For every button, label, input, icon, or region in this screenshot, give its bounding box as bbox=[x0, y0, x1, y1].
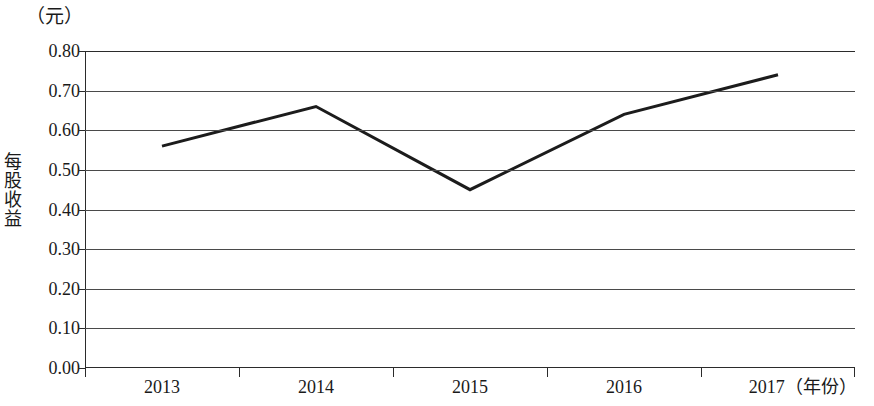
x-axis-tick-label: 2016 bbox=[606, 376, 642, 398]
y-axis-tick-mark bbox=[78, 170, 85, 171]
plot-area bbox=[85, 51, 855, 368]
y-axis-tick-label: 0.80 bbox=[28, 42, 80, 60]
y-axis-tick-label: 0.00 bbox=[28, 359, 80, 377]
x-axis-tick-label: 2017（年份） bbox=[749, 376, 857, 398]
x-axis-tick-label: 2013 bbox=[144, 376, 180, 398]
gridline bbox=[85, 249, 855, 250]
x-axis-tick-label: 2015 bbox=[452, 376, 488, 398]
y-axis-tick-mark bbox=[78, 328, 85, 329]
y-axis-tick-label: 0.60 bbox=[28, 121, 80, 139]
y-axis-tick-label: 0.70 bbox=[28, 82, 80, 100]
x-axis-unit-label: （年份） bbox=[785, 377, 857, 397]
gridline bbox=[85, 91, 855, 92]
gridline bbox=[85, 130, 855, 131]
chart-container: （元） 每股收益 0.800.700.600.500.400.300.200.1… bbox=[0, 0, 874, 406]
y-axis-tick-label: 0.20 bbox=[28, 280, 80, 298]
y-axis-title: 每股收益 bbox=[2, 152, 24, 228]
x-axis-tick-label-text: 2017 bbox=[749, 377, 785, 397]
y-axis-tick-mark bbox=[78, 91, 85, 92]
gridline bbox=[85, 51, 855, 52]
y-axis-tick-label: 0.10 bbox=[28, 319, 80, 337]
y-axis-tick-label: 0.50 bbox=[28, 161, 80, 179]
gridline bbox=[85, 328, 855, 329]
gridline bbox=[85, 210, 855, 211]
y-axis-tick-mark bbox=[78, 289, 85, 290]
gridline bbox=[85, 170, 855, 171]
y-axis-tick-label: 0.30 bbox=[28, 240, 80, 258]
y-axis-tick-mark bbox=[78, 210, 85, 211]
y-axis-tick-labels: 0.800.700.600.500.400.300.200.100.00 bbox=[28, 0, 80, 406]
gridline bbox=[85, 289, 855, 290]
y-axis-tick-mark bbox=[78, 51, 85, 52]
y-axis-tick-mark bbox=[78, 249, 85, 250]
y-axis-tick-label: 0.40 bbox=[28, 201, 80, 219]
x-axis-tick-label: 2014 bbox=[298, 376, 334, 398]
y-axis-tick-mark bbox=[78, 368, 85, 369]
x-axis-tick-labels: 20132014201520162017（年份） bbox=[0, 376, 874, 406]
y-axis-tick-mark bbox=[78, 130, 85, 131]
